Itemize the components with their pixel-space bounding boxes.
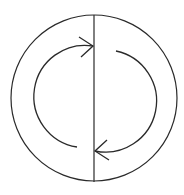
right-arc-arrow [95, 51, 157, 152]
circulation-diagram [0, 0, 184, 195]
left-arc-arrow [34, 45, 93, 147]
arrowhead-icon [79, 37, 93, 57]
arrowhead-icon [95, 140, 109, 160]
diagram-canvas [0, 0, 184, 195]
